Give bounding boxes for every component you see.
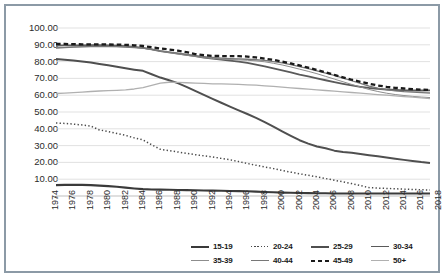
chart-legend: 15-1920-2425-2930-3435-3940-4445-4950+ — [191, 239, 431, 267]
legend-swatch-icon — [371, 256, 389, 265]
legend-label: 40-44 — [273, 256, 292, 265]
legend-label: 20-24 — [273, 242, 292, 251]
x-axis-tick-labels: 1974197619781980198219841986198819901992… — [6, 6, 438, 271]
x-tick-label: 1974 — [50, 190, 60, 210]
chart-frame: 100.0090.0080.0070.0060.0050.0040.0030.0… — [4, 4, 440, 273]
x-tick-label: 1976 — [67, 190, 77, 210]
legend-item-25-29[interactable]: 25-29 — [311, 239, 371, 253]
legend-item-40-44[interactable]: 40-44 — [251, 253, 311, 267]
legend-swatch-icon — [191, 242, 209, 251]
legend-item-35-39[interactable]: 35-39 — [191, 253, 251, 267]
x-tick-label: 2014 — [398, 190, 408, 210]
legend-item-50plus[interactable]: 50+ — [371, 253, 431, 267]
legend-swatch-icon — [191, 256, 209, 265]
legend-item-30-34[interactable]: 30-34 — [371, 239, 431, 253]
x-tick-label: 1986 — [154, 190, 164, 210]
x-tick-label: 2002 — [294, 190, 304, 210]
legend-label: 50+ — [393, 256, 406, 265]
legend-label: 15-19 — [213, 242, 232, 251]
legend-swatch-icon — [251, 242, 269, 251]
x-tick-label: 1990 — [189, 190, 199, 210]
x-tick-label: 2004 — [311, 190, 321, 210]
x-tick-label: 2010 — [363, 190, 373, 210]
chart-plot-container: 100.0090.0080.0070.0060.0050.0040.0030.0… — [6, 6, 438, 271]
x-tick-label: 1984 — [137, 190, 147, 210]
legend-swatch-icon — [371, 242, 389, 251]
x-tick-label: 1988 — [172, 190, 182, 210]
x-tick-label: 1982 — [120, 190, 130, 210]
x-tick-label: 2000 — [276, 190, 286, 210]
x-tick-label: 2018 — [433, 190, 443, 210]
legend-label: 25-29 — [333, 242, 352, 251]
x-tick-label: 1992 — [207, 190, 217, 210]
legend-item-20-24[interactable]: 20-24 — [251, 239, 311, 253]
x-tick-label: 1994 — [224, 190, 234, 210]
legend-swatch-icon — [311, 242, 329, 251]
legend-swatch-icon — [311, 256, 329, 265]
legend-item-45-49[interactable]: 45-49 — [311, 253, 371, 267]
x-tick-label: 2008 — [346, 190, 356, 210]
x-tick-label: 2012 — [381, 190, 391, 210]
x-tick-label: 2006 — [328, 190, 338, 210]
legend-swatch-icon — [251, 256, 269, 265]
legend-label: 30-34 — [393, 242, 412, 251]
legend-label: 35-39 — [213, 256, 232, 265]
x-tick-label: 1998 — [259, 190, 269, 210]
x-tick-label: 2016 — [415, 190, 425, 210]
x-tick-label: 1978 — [85, 190, 95, 210]
x-tick-label: 1996 — [241, 190, 251, 210]
x-tick-label: 1980 — [102, 190, 112, 210]
legend-item-15-19[interactable]: 15-19 — [191, 239, 251, 253]
legend-label: 45-49 — [333, 256, 352, 265]
